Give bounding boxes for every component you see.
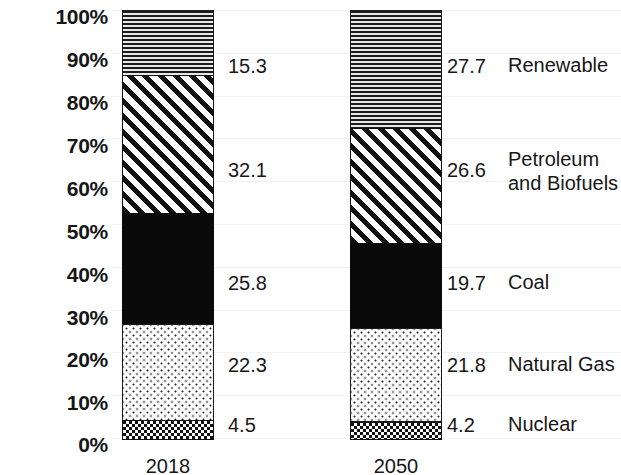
value-label-2018-renewable: 15.3 xyxy=(228,56,267,76)
value-label-2018-nuclear: 4.5 xyxy=(228,415,256,435)
segment-2018-renewable[interactable] xyxy=(122,10,214,76)
segment-2050-renewable[interactable] xyxy=(350,10,442,129)
segment-2018-nuclear[interactable] xyxy=(122,420,214,440)
segment-2050-nuclear[interactable] xyxy=(350,422,442,440)
segment-2018-petroleum[interactable] xyxy=(122,75,214,214)
stacked-bar-chart: 100% 90% 80% 70% 60% 50% 40% 30% 20% 10%… xyxy=(0,0,621,475)
value-label-2018-petroleum: 32.1 xyxy=(228,160,267,180)
value-label-2050-renewable: 27.7 xyxy=(447,56,486,76)
series-label-renewable: Renewable xyxy=(508,54,608,78)
x-tick-2050: 2050 xyxy=(374,456,419,475)
bar-2018[interactable] xyxy=(122,10,214,440)
value-label-2018-coal: 25.8 xyxy=(228,273,267,293)
segment-2050-petroleum[interactable] xyxy=(350,128,442,244)
bar-2050[interactable] xyxy=(350,10,442,440)
segment-2050-natural-gas[interactable] xyxy=(350,328,442,422)
series-label-petroleum: Petroleum and Biofuels xyxy=(508,148,618,195)
plot-area: 15.3 32.1 25.8 22.3 4.5 27.7 26.6 19.7 2… xyxy=(0,0,621,475)
series-label-natural-gas: Natural Gas xyxy=(508,353,615,377)
value-label-2050-petroleum: 26.6 xyxy=(447,160,486,180)
series-label-coal: Coal xyxy=(508,271,549,295)
value-label-2050-natural-gas: 21.8 xyxy=(447,355,486,375)
series-label-nuclear: Nuclear xyxy=(508,413,577,437)
value-label-2050-coal: 19.7 xyxy=(447,273,486,293)
segment-2050-coal[interactable] xyxy=(350,243,442,329)
value-label-2018-natural-gas: 22.3 xyxy=(228,355,267,375)
x-tick-2018: 2018 xyxy=(146,456,191,475)
segment-2018-coal[interactable] xyxy=(122,213,214,325)
segment-2018-natural-gas[interactable] xyxy=(122,324,214,421)
value-label-2050-nuclear: 4.2 xyxy=(447,415,475,435)
